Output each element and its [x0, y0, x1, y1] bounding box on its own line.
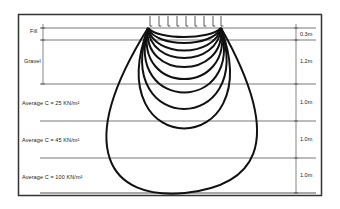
thickness-c45: 1.0m [300, 136, 312, 142]
layer-label-c100: Average C = 100 KN/m² [22, 174, 83, 180]
right-dimension [294, 24, 298, 193]
layer-boundaries [40, 28, 316, 193]
pressure-bulbs [107, 28, 258, 194]
layer-label-c45: Average C = 45 KN/m² [22, 137, 79, 143]
thickness-c25: 1.0m [300, 99, 312, 105]
layer-label-c25: Average C = 25 KN/m² [22, 100, 79, 106]
load-arrows [150, 16, 221, 26]
layer-label-gravel: Gravel [24, 58, 41, 64]
thickness-gravel: 1.2m [300, 58, 312, 64]
layer-label-fill: Fill [30, 28, 37, 34]
left-dimension [41, 24, 45, 84]
thickness-fill: 0.3m [300, 31, 312, 37]
thickness-c100: 1.0m [300, 172, 312, 178]
